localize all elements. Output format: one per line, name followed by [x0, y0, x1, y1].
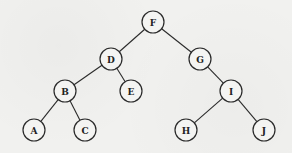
node-label: E — [128, 87, 135, 97]
node-label: G — [196, 55, 204, 65]
tree-diagram: FDGBEIACHJ — [0, 0, 292, 153]
node-h: H — [175, 119, 197, 141]
node-g: G — [189, 48, 211, 70]
edge-g-i — [208, 67, 224, 83]
node-label: I — [229, 87, 233, 97]
edge-i-j — [238, 99, 257, 121]
nodes-group: FDGBEIACHJ — [23, 11, 275, 141]
edges-group — [41, 29, 257, 123]
node-label: A — [30, 126, 39, 136]
node-label: D — [107, 55, 115, 65]
node-i: I — [220, 80, 242, 102]
edge-f-g — [162, 29, 192, 52]
node-d: D — [100, 48, 122, 70]
node-e: E — [120, 80, 142, 102]
node-label: C — [81, 126, 88, 136]
node-label: B — [61, 87, 69, 97]
node-label: F — [150, 18, 157, 28]
edge-b-c — [70, 101, 80, 120]
tree-svg: FDGBEIACHJ — [0, 0, 292, 153]
node-a: A — [23, 119, 45, 141]
node-c: C — [74, 119, 96, 141]
node-label: H — [182, 126, 191, 136]
edge-f-d — [119, 29, 144, 51]
edge-i-h — [194, 98, 222, 123]
edge-d-e — [117, 68, 125, 81]
edge-d-b — [74, 65, 102, 84]
node-f: F — [142, 11, 164, 33]
node-b: B — [54, 80, 76, 102]
edge-b-a — [41, 100, 58, 122]
node-j: J — [253, 119, 275, 141]
node-label: J — [261, 126, 266, 136]
